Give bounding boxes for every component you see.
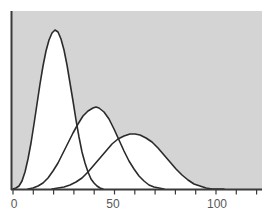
x-tick-label-0: 0 bbox=[11, 197, 18, 211]
chart-container: 0 50 100 bbox=[0, 0, 274, 218]
distribution-chart: 0 50 100 bbox=[0, 0, 274, 218]
x-tick-label-50: 50 bbox=[106, 197, 120, 211]
x-axis-tick-labels: 0 50 100 bbox=[11, 197, 228, 211]
x-tick-label-100: 100 bbox=[207, 197, 227, 211]
